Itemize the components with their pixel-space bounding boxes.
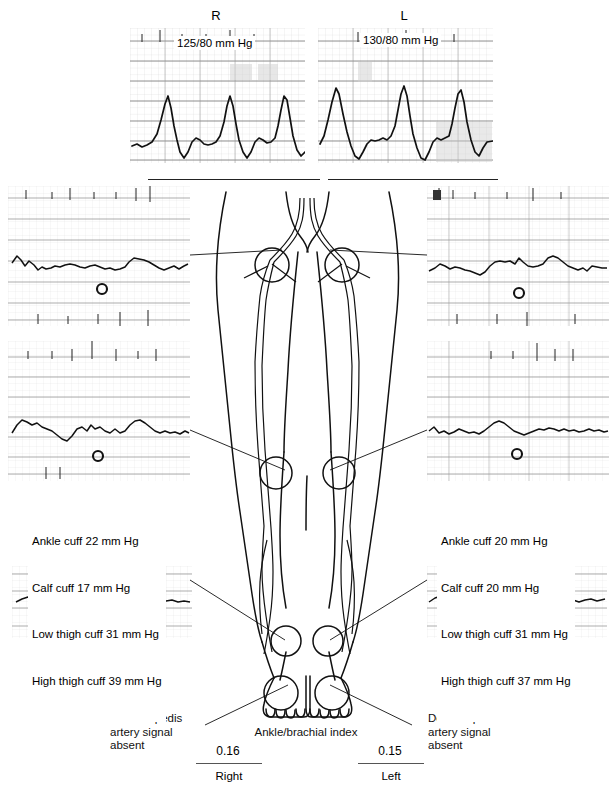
abi-title: Ankle/brachial index bbox=[236, 726, 376, 740]
abi-right-value: 0.16 bbox=[193, 744, 263, 758]
abi-right-underline bbox=[196, 763, 262, 764]
abi-left-underline bbox=[358, 763, 424, 764]
left-brachial-side-label: L bbox=[384, 8, 424, 23]
abi-left-side-label: Left bbox=[356, 770, 426, 782]
right-brachial-side-label: R bbox=[196, 8, 236, 23]
left-ankle-cuff-label: Ankle cuff 20 mm Hg bbox=[441, 534, 571, 550]
abi-left-value: 0.15 bbox=[355, 744, 425, 758]
left-low-thigh-cuff-label: Low thigh cuff 31 mm Hg bbox=[441, 627, 571, 643]
left-cuff-pressures-block: Ankle cuff 20 mm Hg Calf cuff 20 mm Hg L… bbox=[437, 501, 575, 722]
site-circle-right-dorsalis-pedis bbox=[264, 676, 298, 710]
lower-extremity-anatomy-diagram bbox=[200, 190, 415, 720]
left-brachial-pressure-label: 130/80 mm Hg bbox=[360, 33, 441, 47]
right-brachial-pressure-label: 125/80 mm Hg bbox=[174, 36, 255, 50]
left-high-thigh-cuff-label: High thigh cuff 37 mm Hg bbox=[441, 674, 571, 690]
site-circle-right-popliteal bbox=[260, 457, 292, 489]
abi-right-side-label: Right bbox=[194, 770, 264, 782]
site-circle-left-popliteal bbox=[323, 457, 355, 489]
site-circle-left-dorsalis-pedis bbox=[315, 676, 349, 710]
left-brachial-waveform-panel bbox=[318, 28, 493, 163]
right-cuff-pressures-block: Ankle cuff 22 mm Hg Calf cuff 17 mm Hg L… bbox=[28, 501, 166, 722]
site-circle-right-femoral bbox=[255, 248, 289, 282]
vascular-study-figure: R L bbox=[0, 0, 611, 800]
right-high-thigh-cuff-label: High thigh cuff 39 mm Hg bbox=[32, 674, 162, 690]
right-calf-cuff-label: Calf cuff 17 mm Hg bbox=[32, 581, 162, 597]
right-ankle-cuff-label: Ankle cuff 22 mm Hg bbox=[32, 534, 162, 550]
site-circle-left-ankle bbox=[313, 626, 343, 656]
right-low-thigh-cuff-label: Low thigh cuff 31 mm Hg bbox=[32, 627, 162, 643]
left-calf-cuff-label: Calf cuff 20 mm Hg bbox=[441, 581, 571, 597]
site-circle-left-femoral bbox=[325, 248, 359, 282]
